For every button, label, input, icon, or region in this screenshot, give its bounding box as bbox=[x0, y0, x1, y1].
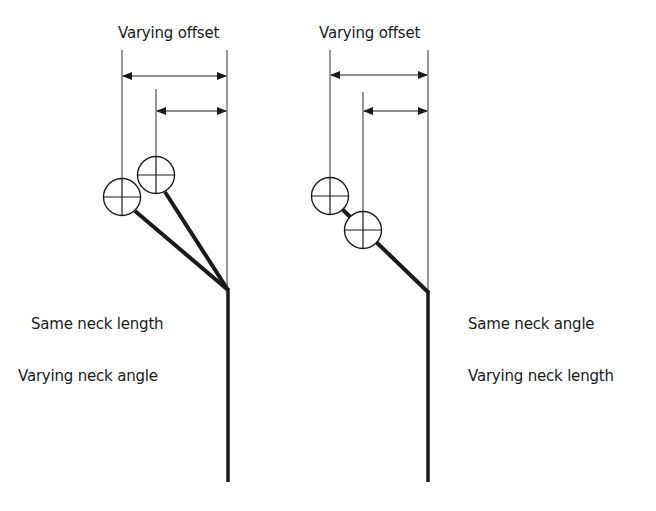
right-caption-2: Varying neck length bbox=[468, 367, 614, 385]
diagram-canvas: Varying offset Varying offset Same neck … bbox=[0, 0, 656, 511]
right-caption-1: Same neck angle bbox=[468, 315, 594, 333]
left-head-2 bbox=[138, 157, 175, 194]
left-panel-title: Varying offset bbox=[118, 24, 219, 42]
left-caption-1: Same neck length bbox=[31, 315, 163, 333]
right-head-2 bbox=[345, 212, 382, 249]
left-panel bbox=[104, 50, 229, 482]
left-caption-2: Varying neck angle bbox=[18, 367, 158, 385]
right-head-1 bbox=[312, 178, 349, 215]
right-panel bbox=[312, 50, 430, 482]
left-neck-2 bbox=[165, 192, 228, 290]
left-neck-1 bbox=[135, 211, 228, 290]
left-head-1 bbox=[104, 179, 141, 216]
femoral-offset-diagram bbox=[0, 0, 656, 511]
right-panel-title: Varying offset bbox=[319, 24, 420, 42]
